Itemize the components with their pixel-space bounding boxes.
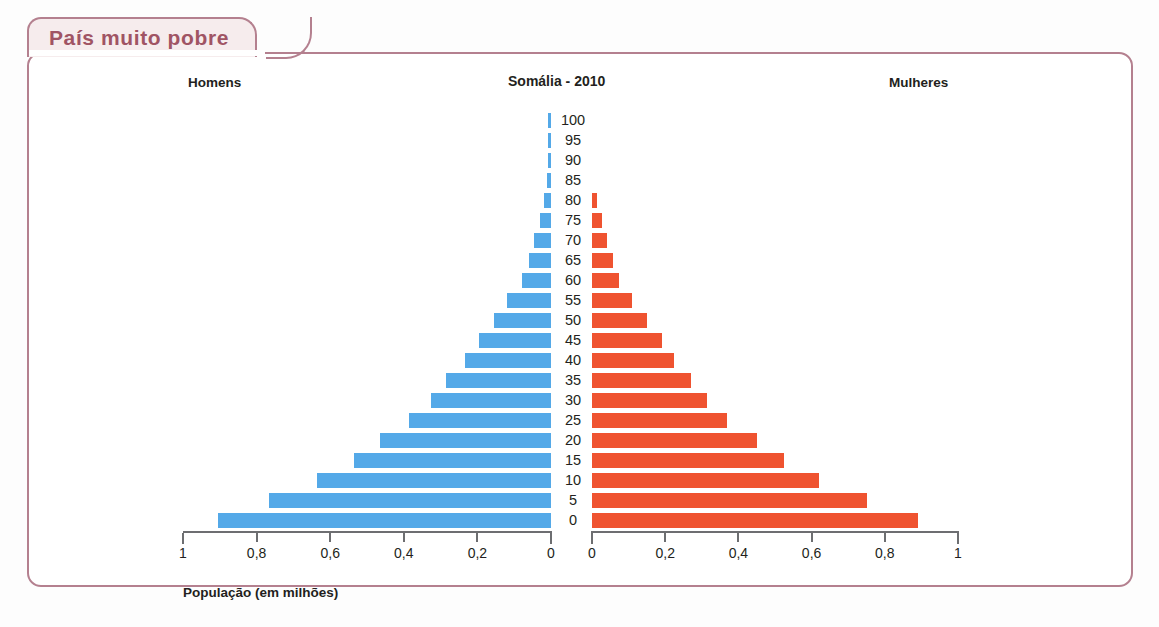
age-label-15: 15 <box>554 450 592 470</box>
tick-women-0,6 <box>811 533 813 542</box>
tick-men-0,2 <box>476 533 478 542</box>
tick-men-0,8 <box>256 533 258 542</box>
age-label-30: 30 <box>554 390 592 410</box>
bar-men-age-70 <box>534 233 551 248</box>
axis-line-men <box>183 531 552 533</box>
pyramid-row: 65 <box>0 250 1159 270</box>
bar-men-age-60 <box>522 273 551 288</box>
bar-men-age-80 <box>544 193 551 208</box>
pyramid-row: 50 <box>0 310 1159 330</box>
tick-label-women-1: 1 <box>954 545 962 561</box>
bar-women-age-75 <box>592 213 602 228</box>
tick-women-1 <box>957 533 959 544</box>
bar-men-age-100 <box>548 113 551 128</box>
chart-plot-area: Homens Somália - 2010 Mulheres 051015202… <box>0 0 1159 627</box>
age-label-25: 25 <box>554 410 592 430</box>
pyramid-row: 10 <box>0 470 1159 490</box>
panel-title-label: País muito pobre <box>49 26 229 50</box>
bar-men-age-95 <box>548 133 551 148</box>
bar-men-age-40 <box>465 353 551 368</box>
pyramid-row: 5 <box>0 490 1159 510</box>
bar-men-age-35 <box>446 373 551 388</box>
bar-women-age-35 <box>592 373 691 388</box>
bar-women-age-40 <box>592 353 674 368</box>
pyramid-row: 20 <box>0 430 1159 450</box>
bar-men-age-75 <box>540 213 551 228</box>
tick-men-0,6 <box>329 533 331 542</box>
age-label-5: 5 <box>554 490 592 510</box>
pyramid-row: 45 <box>0 330 1159 350</box>
pyramid-row: 85 <box>0 170 1159 190</box>
age-label-80: 80 <box>554 190 592 210</box>
age-label-50: 50 <box>554 310 592 330</box>
age-label-95: 95 <box>554 130 592 150</box>
bar-women-age-20 <box>592 433 757 448</box>
pyramid-row: 25 <box>0 410 1159 430</box>
tick-men-0,4 <box>403 533 405 542</box>
bar-men-age-10 <box>317 473 551 488</box>
tick-women-0,2 <box>664 533 666 542</box>
pyramid-row: 35 <box>0 370 1159 390</box>
bar-women-age-65 <box>592 253 613 268</box>
tick-label-men-0: 0 <box>547 545 555 561</box>
pyramid-row: 100 <box>0 110 1159 130</box>
pyramid-row: 80 <box>0 190 1159 210</box>
pyramid-row: 60 <box>0 270 1159 290</box>
tick-label-women-0,2: 0,2 <box>655 545 674 561</box>
age-label-0: 0 <box>554 510 592 530</box>
axis-label-population: População (em milhões) <box>183 585 338 600</box>
tick-label-women-0,4: 0,4 <box>729 545 748 561</box>
bar-women-age-70 <box>592 233 607 248</box>
chart-title: Somália - 2010 <box>508 73 605 89</box>
bar-women-age-10 <box>592 473 819 488</box>
bar-men-age-85 <box>547 173 551 188</box>
tick-label-men-0,4: 0,4 <box>394 545 413 561</box>
axis-line-women <box>591 531 959 533</box>
pyramid-row: 30 <box>0 390 1159 410</box>
bar-women-age-80 <box>592 193 597 208</box>
bar-men-age-5 <box>269 493 551 508</box>
age-label-90: 90 <box>554 150 592 170</box>
bar-men-age-30 <box>431 393 551 408</box>
tick-label-men-1: 1 <box>179 545 187 561</box>
pyramid-row: 75 <box>0 210 1159 230</box>
tick-men-0 <box>550 533 552 544</box>
age-label-45: 45 <box>554 330 592 350</box>
tick-label-men-0,6: 0,6 <box>320 545 339 561</box>
pyramid-row: 15 <box>0 450 1159 470</box>
bar-men-age-45 <box>479 333 551 348</box>
age-label-10: 10 <box>554 470 592 490</box>
pyramid-row: 70 <box>0 230 1159 250</box>
chart-header-men: Homens <box>188 75 241 90</box>
tick-women-0,4 <box>737 533 739 542</box>
bar-women-age-50 <box>592 313 647 328</box>
panel-tab-seam-mask <box>29 50 265 56</box>
bar-women-age-15 <box>592 453 784 468</box>
pyramid-row: 90 <box>0 150 1159 170</box>
pyramid-row: 0 <box>0 510 1159 530</box>
bar-men-age-65 <box>529 253 551 268</box>
tick-label-women-0,8: 0,8 <box>875 545 894 561</box>
pyramid-row: 95 <box>0 130 1159 150</box>
tick-label-men-0,8: 0,8 <box>247 545 266 561</box>
age-label-20: 20 <box>554 430 592 450</box>
bar-men-age-25 <box>409 413 551 428</box>
age-label-40: 40 <box>554 350 592 370</box>
tick-women-0 <box>591 533 593 544</box>
bar-women-age-5 <box>592 493 867 508</box>
figure-population-pyramid: País muito pobre Homens Somália - 2010 M… <box>0 0 1159 627</box>
bar-men-age-0 <box>218 513 551 528</box>
age-label-70: 70 <box>554 230 592 250</box>
age-label-35: 35 <box>554 370 592 390</box>
age-label-75: 75 <box>554 210 592 230</box>
bar-women-age-60 <box>592 273 619 288</box>
pyramid-row: 55 <box>0 290 1159 310</box>
age-label-85: 85 <box>554 170 592 190</box>
bar-women-age-25 <box>592 413 727 428</box>
tick-label-women-0,6: 0,6 <box>802 545 821 561</box>
age-label-100: 100 <box>554 110 592 130</box>
age-label-55: 55 <box>554 290 592 310</box>
chart-header-women: Mulheres <box>889 75 948 90</box>
bar-men-age-20 <box>380 433 551 448</box>
age-label-60: 60 <box>554 270 592 290</box>
